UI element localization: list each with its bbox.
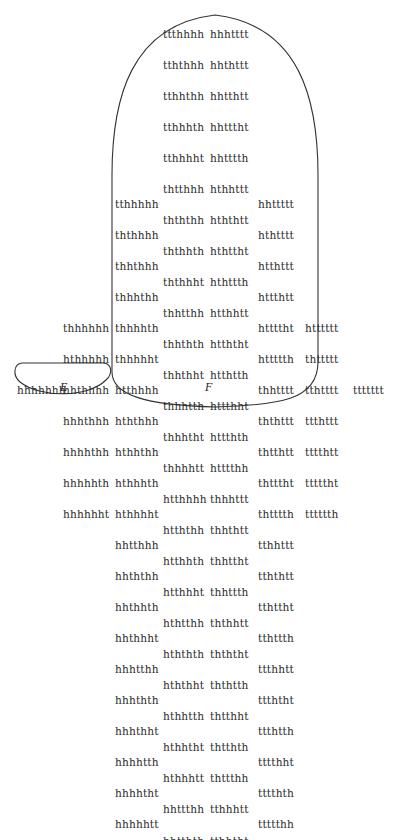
region-e-label: E: [60, 380, 67, 395]
sequence: thtttht: [258, 478, 294, 488]
sequence: thhtthh: [163, 308, 207, 318]
sequence: tthttht: [258, 602, 294, 612]
sequence: ththhth: [163, 246, 207, 256]
sequence: hhtthth: [163, 836, 207, 840]
sequence: htthhhh: [115, 385, 159, 395]
column-zero-heads: ttttttt: [353, 364, 384, 416]
sequence: thhhhhh: [63, 323, 109, 333]
sequence: hhttttt: [258, 199, 294, 209]
sequence: ttttthh: [258, 819, 294, 829]
column-one-head: htttttt thttttt tthtttt ttthttt tttthtt …: [305, 302, 338, 540]
sequence: htththh: [163, 525, 207, 535]
sequence: tttthht: [258, 757, 294, 767]
sequence: hthhthh: [115, 447, 159, 457]
sequence: tttttth: [305, 509, 338, 519]
region-f-label: F: [205, 380, 212, 395]
sequence: tttthth: [258, 788, 294, 798]
sequence: hhhthhh: [63, 416, 109, 426]
sequence: ttththt: [258, 695, 294, 705]
sequence: hhhhtth: [115, 757, 159, 767]
sequence: hhttthh: [163, 804, 207, 814]
sequence: thtthth: [210, 742, 249, 752]
sequence: hhhhtht: [115, 788, 159, 798]
sequence: hhthhht: [115, 633, 159, 643]
sequence: thhhttt: [210, 494, 249, 504]
sequence: thhthhh: [115, 261, 159, 271]
sequence: tthhhth: [163, 122, 207, 132]
sequence: thhthht: [163, 370, 207, 380]
sequence: tthhtht: [210, 836, 249, 840]
sequence: thtthtt: [258, 447, 294, 457]
sequence: thhhtth: [163, 401, 207, 411]
sequence: httttht: [258, 323, 294, 333]
sequence: ttthtth: [258, 726, 294, 736]
sequence: hhhhhhh: [17, 385, 66, 395]
sequence: hhthttt: [210, 60, 249, 70]
sequence: thtthhh: [163, 184, 207, 194]
sequence: htttttt: [305, 323, 338, 333]
sequence: hhhtthh: [115, 664, 159, 674]
sequence: ththhhh: [115, 230, 159, 240]
sequence: hththhh: [115, 416, 159, 426]
sequence: httttth: [258, 354, 294, 364]
sequence: thttttt: [305, 354, 338, 364]
sequence: htthttt: [258, 261, 294, 271]
sequence: tttthtt: [305, 447, 338, 457]
sequence: hthtthh: [163, 618, 207, 628]
sequence: hthhttt: [210, 184, 249, 194]
sequence: htthhht: [163, 587, 207, 597]
sequence: hthhhth: [115, 478, 159, 488]
sequence: hthhtht: [163, 742, 207, 752]
sequence: tthhhhh: [115, 199, 159, 209]
sequence: hhthhth: [115, 602, 159, 612]
sequence: thhtttt: [258, 385, 294, 395]
sequence: ththttt: [258, 416, 294, 426]
sequence: htththt: [210, 339, 249, 349]
sequence: tththtt: [258, 571, 294, 581]
sequence: htthhhh: [163, 494, 207, 504]
sequence: httthtt: [258, 292, 294, 302]
sequence: ththtth: [210, 680, 249, 690]
column-five-heads: tthhhhh ththhhh thhthhh thhhthh thhhhth …: [115, 178, 159, 840]
sequence: ttthttt: [305, 416, 338, 426]
sequence: hththtt: [210, 215, 249, 225]
sequence: htthhtt: [210, 308, 249, 318]
column-four-heads: ttthhhh tththhh tthhthh tthhhth tthhhht …: [163, 8, 207, 840]
sequence: hthttht: [210, 246, 249, 256]
sequence: thttthh: [210, 773, 249, 783]
column-two-heads: hhttttt hthtttt htthttt httthtt httttht …: [258, 178, 294, 840]
sequence: ttthhhh: [163, 29, 207, 39]
sequence: tthtttt: [305, 385, 338, 395]
sequence: tttttht: [305, 478, 338, 488]
sequence: hththht: [163, 680, 207, 690]
sequence: hthhtth: [163, 711, 207, 721]
sequence: hthhhht: [115, 509, 159, 519]
sequence: hhhhhth: [63, 478, 109, 488]
sequence: thhttht: [210, 556, 249, 566]
sequence: httthht: [210, 401, 249, 411]
sequence: thtthht: [210, 711, 249, 721]
sequence: thththt: [210, 649, 249, 659]
sequence: hththth: [163, 649, 207, 659]
sequence: ththhht: [163, 277, 207, 287]
column-three-heads: hhhtttt hhthttt hhtthtt hhtttht hhtttth …: [210, 8, 249, 840]
sequence: hhhtttt: [210, 29, 249, 39]
sequence: ttttttt: [353, 385, 384, 395]
sequence: tthhttt: [258, 540, 294, 550]
sequence: thhhtht: [163, 432, 207, 442]
sequence: thhthtt: [210, 525, 249, 535]
sequence: hhtthhh: [115, 540, 159, 550]
sequence: thhhhht: [115, 354, 159, 364]
sequence: ttthhtt: [258, 664, 294, 674]
sequence: tththhh: [163, 60, 207, 70]
sequence: htthhth: [163, 556, 207, 566]
sequence: thhttth: [210, 587, 249, 597]
sequence: hhhhhht: [63, 509, 109, 519]
column-six-heads: thhhhhh hthhhhh hhthhhh hhhthhh hhhhthh …: [63, 302, 109, 540]
sequence: hhtthtt: [210, 91, 249, 101]
sequence: thhhthh: [115, 292, 159, 302]
sequence: hhhhthh: [63, 447, 109, 457]
sequence: ththhtt: [210, 618, 249, 628]
sequence: hhththh: [115, 571, 159, 581]
sequence: tthhthh: [163, 91, 207, 101]
